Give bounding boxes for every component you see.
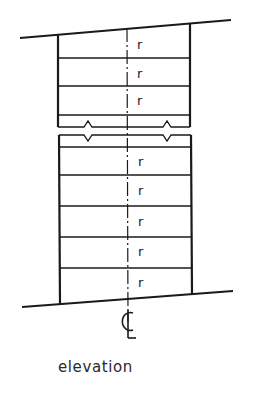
riser-label: r (137, 93, 143, 108)
centerline-symbol-icon (122, 310, 136, 338)
break-mark-upper (58, 121, 190, 127)
riser-label: r (137, 66, 143, 81)
upper-tread-lines (58, 58, 190, 115)
drawing-caption: elevation (58, 358, 133, 376)
riser-label: r (137, 37, 143, 52)
riser-label: r (138, 275, 144, 290)
break-mark-lower (59, 135, 191, 141)
riser-label: r (138, 154, 144, 169)
riser-label: r (138, 183, 144, 198)
riser-label: r (138, 214, 144, 229)
right-wall-lower (191, 135, 192, 295)
stair-elevation-drawing: r r r r r r r r (0, 0, 255, 420)
left-wall-lower (59, 135, 60, 305)
lower-tread-lines (59, 147, 192, 268)
top-slope-line (20, 20, 231, 38)
riser-label: r (138, 244, 144, 259)
riser-labels: r r r r r r r r (137, 37, 144, 290)
